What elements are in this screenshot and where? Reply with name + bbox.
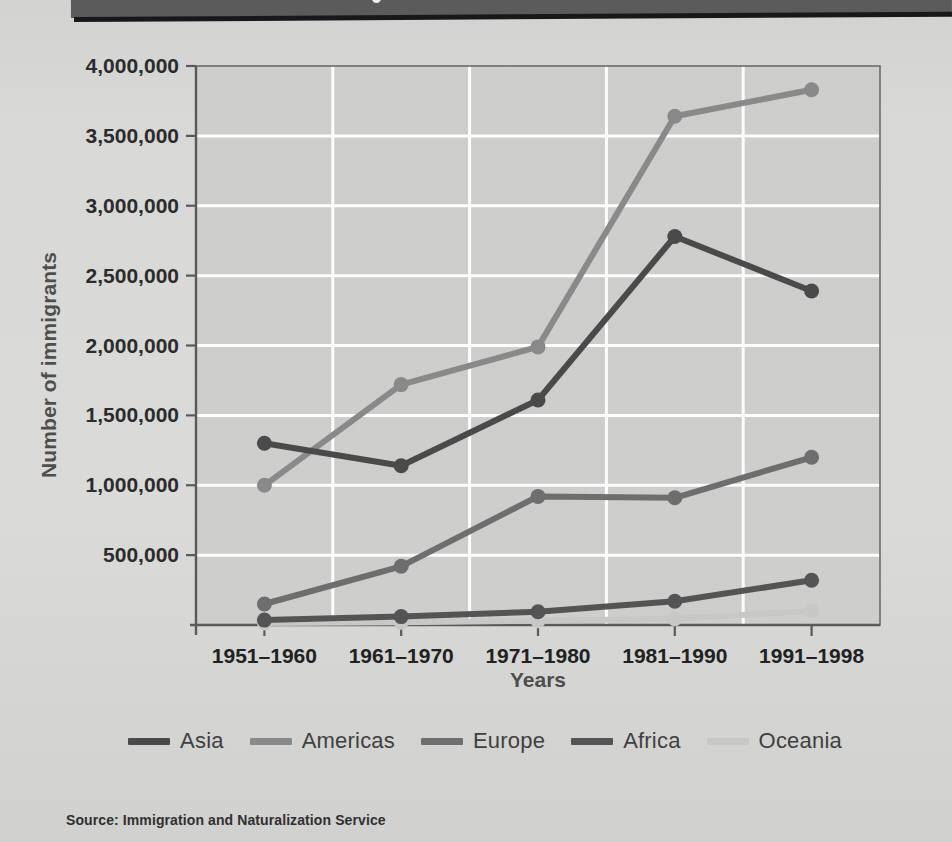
- x-axis-tick-label: 1951–1960: [212, 644, 317, 667]
- legend-item-label: Oceania: [759, 728, 842, 754]
- y-axis-tick-label: 4,000,000: [86, 54, 179, 77]
- data-point: [804, 604, 819, 619]
- x-axis-title: Years: [196, 668, 880, 692]
- legend-swatch-icon: [707, 738, 749, 745]
- data-point: [804, 450, 819, 465]
- legend-item-label: Africa: [623, 728, 680, 754]
- legend-item-europe[interactable]: Europe: [421, 728, 545, 754]
- data-point: [257, 478, 272, 493]
- legend-item-label: Asia: [180, 728, 224, 754]
- data-point: [804, 82, 819, 97]
- line-chart-svg: 500,0001,000,0001,500,0002,000,0002,500,…: [0, 0, 952, 842]
- chart-plot: 500,0001,000,0001,500,0002,000,0002,500,…: [0, 0, 952, 842]
- data-point: [667, 611, 682, 626]
- x-axis-tick-label: 1991–1998: [759, 644, 864, 667]
- data-point: [394, 458, 409, 473]
- data-point: [394, 609, 409, 624]
- legend-item-africa[interactable]: Africa: [571, 728, 680, 754]
- data-point: [257, 613, 272, 628]
- data-point: [667, 594, 682, 609]
- y-axis-tick-label: 2,500,000: [86, 264, 179, 287]
- data-point: [394, 559, 409, 574]
- y-axis-title: Number of immigrants: [37, 205, 61, 525]
- data-point: [531, 339, 546, 354]
- y-axis-tick-label: 3,500,000: [86, 124, 179, 147]
- data-point: [257, 597, 272, 612]
- legend-swatch-icon: [250, 738, 292, 745]
- legend-item-label: Europe: [473, 728, 545, 754]
- legend-swatch-icon: [571, 738, 613, 745]
- data-point: [531, 604, 546, 619]
- y-axis-tick-label: 1,500,000: [86, 403, 179, 426]
- data-point: [804, 284, 819, 299]
- legend-item-oceania[interactable]: Oceania: [707, 728, 842, 754]
- data-point: [531, 489, 546, 504]
- source-note: Source: Immigration and Naturalization S…: [66, 812, 386, 828]
- data-point: [667, 490, 682, 505]
- legend-item-americas[interactable]: Americas: [250, 728, 395, 754]
- legend-swatch-icon: [421, 738, 463, 745]
- y-axis-tick-label: 2,000,000: [86, 334, 179, 357]
- y-axis-tick-label: 500,000: [103, 543, 179, 566]
- data-point: [667, 229, 682, 244]
- legend-item-label: Americas: [302, 728, 395, 754]
- x-axis-tick-label: 1981–1990: [622, 644, 727, 667]
- data-point: [257, 436, 272, 451]
- x-axis-tick-label: 1961–1970: [349, 644, 454, 667]
- data-point: [394, 377, 409, 392]
- chart-legend: AsiaAmericasEuropeAfricaOceania: [100, 728, 870, 754]
- data-point: [804, 573, 819, 588]
- data-point: [531, 393, 546, 408]
- data-point: [667, 109, 682, 124]
- y-axis-tick-label: 1,000,000: [86, 473, 179, 496]
- legend-swatch-icon: [128, 738, 170, 745]
- y-axis-tick-label: 3,000,000: [86, 194, 179, 217]
- legend-item-asia[interactable]: Asia: [128, 728, 224, 754]
- x-axis-tick-label: 1971–1980: [485, 644, 590, 667]
